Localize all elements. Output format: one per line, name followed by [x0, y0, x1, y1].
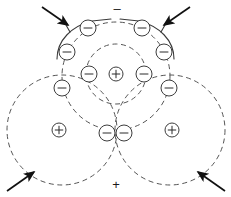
electron-bottom-left: [99, 125, 115, 141]
arrow-bottom-right: [198, 172, 225, 191]
electron-inner-right: [136, 66, 152, 82]
electron-top-right: [134, 20, 150, 36]
figure-container: – +: [0, 0, 231, 197]
bracket-top-right-tick: [161, 25, 165, 32]
electron-inner-left: [81, 66, 97, 82]
electron-mid-right: [161, 80, 177, 96]
electron-top-left: [80, 20, 96, 36]
arrow-bottom-left: [7, 172, 34, 191]
left-nucleus: [52, 123, 66, 137]
orbit-group: [7, 22, 225, 185]
electron-mid-left: [54, 80, 70, 96]
arrow-top-left: [42, 7, 68, 25]
arrow-top-right: [164, 7, 190, 25]
top-nucleus: [109, 67, 123, 81]
electron-bottom-right: [116, 125, 132, 141]
right-nucleus: [165, 123, 179, 137]
arrow-group: [7, 7, 225, 191]
bracket-top-left-tick: [66, 25, 70, 32]
electron-upper-right: [156, 44, 172, 60]
top-minus-sign-label: –: [113, 1, 121, 16]
electron-upper-left: [59, 44, 75, 60]
electron-shell-diagram: – +: [0, 0, 231, 197]
bottom-plus-sign-label: +: [112, 177, 120, 192]
